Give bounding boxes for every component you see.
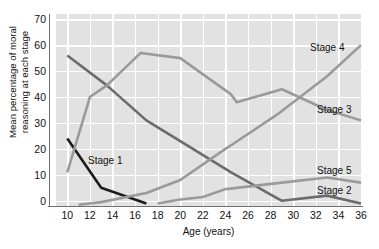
series-label-stage-5: Stage 5 bbox=[317, 165, 351, 176]
series-label-stage-2: Stage 2 bbox=[317, 185, 351, 196]
series-line-stage-4 bbox=[79, 45, 361, 205]
series-label-stage-4: Stage 4 bbox=[310, 42, 344, 53]
series-lines-layer bbox=[0, 0, 379, 249]
moral-reasoning-line-chart: Mean percentage of moral reasoning at ea… bbox=[0, 0, 379, 249]
x-axis-title: Age (years) bbox=[56, 226, 361, 237]
series-label-stage-1: Stage 1 bbox=[88, 155, 122, 166]
series-label-stage-3: Stage 3 bbox=[317, 104, 351, 115]
series-line-stage-1 bbox=[67, 139, 146, 204]
series-line-stage-2 bbox=[67, 56, 361, 204]
